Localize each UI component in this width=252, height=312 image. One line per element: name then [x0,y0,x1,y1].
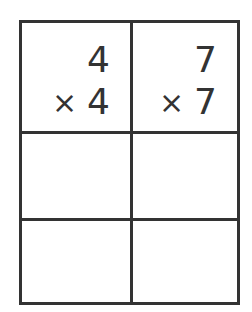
multiplicand: 7 [194,39,217,80]
multiplier-row: ×7 [159,81,217,125]
multiplicand-row: 4 [52,39,110,81]
problem-2: 7 ×7 [159,39,217,125]
multiplicand: 4 [87,39,110,80]
problem-cell-2: 7 ×7 [133,23,237,131]
answer-cell-2[interactable] [133,134,237,218]
blank-cell-1[interactable] [22,221,130,302]
multiplier: 4 [87,81,110,122]
answer-cell-1[interactable] [22,134,130,218]
blank-cell-2[interactable] [133,221,237,302]
times-sign: × [52,85,77,120]
multiplicand-row: 7 [159,39,217,81]
problem-1: 4 ×4 [52,39,110,125]
problem-cell-1: 4 ×4 [22,23,130,131]
times-sign: × [159,85,184,120]
multiplication-grid: 4 ×4 7 ×7 [19,20,240,305]
multiplier-row: ×4 [52,81,110,125]
multiplier: 7 [194,81,217,122]
